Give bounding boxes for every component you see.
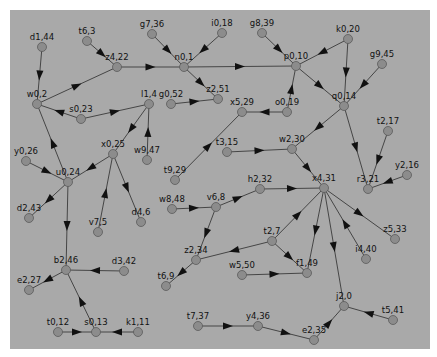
node-circle[interactable] (310, 336, 319, 345)
node-circle[interactable] (22, 157, 31, 166)
node-circle[interactable] (137, 218, 146, 227)
graph-node[interactable]: e2,35 (302, 325, 326, 345)
node-circle[interactable] (283, 108, 292, 117)
graph-node[interactable]: g7,36 (140, 19, 164, 39)
node-circle[interactable] (120, 267, 129, 276)
graph-node[interactable]: z2,51 (206, 84, 229, 104)
node-circle[interactable] (38, 43, 47, 52)
graph-node[interactable]: w0,2 (27, 89, 47, 109)
node-circle[interactable] (54, 328, 63, 337)
node-circle[interactable] (94, 228, 103, 237)
node-circle[interactable] (384, 127, 393, 136)
node-circle[interactable] (288, 145, 297, 154)
node-circle[interactable] (194, 322, 203, 331)
graph-node[interactable]: t7,37 (187, 311, 209, 331)
graph-node[interactable]: g8,39 (250, 18, 274, 38)
graph-node[interactable]: d3,42 (112, 256, 136, 276)
node-circle[interactable] (403, 171, 412, 180)
node-circle[interactable] (109, 150, 118, 159)
graph-node[interactable]: y0,26 (14, 146, 38, 166)
graph-node[interactable]: t3,15 (216, 137, 238, 157)
node-circle[interactable] (391, 235, 400, 244)
graph-node[interactable]: o0,19 (275, 97, 299, 117)
graph-node[interactable]: y2,16 (395, 160, 419, 180)
graph-node[interactable]: x4,31 (312, 173, 336, 193)
graph-node[interactable]: v7,5 (89, 217, 108, 237)
graph-node[interactable]: i0,18 (211, 18, 232, 38)
node-circle[interactable] (180, 63, 189, 72)
node-circle[interactable] (362, 255, 371, 264)
node-circle[interactable] (83, 37, 92, 46)
node-circle[interactable] (378, 60, 387, 69)
graph-node[interactable]: x0,25 (101, 139, 125, 159)
graph-node[interactable]: k1,11 (126, 317, 150, 337)
graph-node[interactable]: b2,46 (54, 255, 78, 275)
node-circle[interactable] (389, 316, 398, 325)
graph-node[interactable]: t0,12 (47, 317, 69, 337)
node-circle[interactable] (340, 102, 349, 111)
node-circle[interactable] (218, 29, 227, 38)
node-circle[interactable] (25, 214, 34, 223)
node-circle[interactable] (33, 100, 42, 109)
node-circle[interactable] (64, 178, 73, 187)
graph-node[interactable]: s0,13 (84, 317, 107, 337)
graph-node[interactable]: z5,33 (383, 224, 406, 244)
graph-node[interactable]: w8,48 (159, 194, 185, 214)
node-circle[interactable] (223, 148, 232, 157)
graph-node[interactable]: x5,29 (230, 97, 254, 117)
graph-node[interactable]: w2,30 (279, 134, 305, 154)
graph-node[interactable]: t9,29 (164, 165, 186, 185)
graph-node[interactable]: u0,24 (56, 167, 80, 187)
node-circle[interactable] (292, 62, 301, 71)
graph-node[interactable]: v6,8 (207, 192, 226, 212)
node-circle[interactable] (168, 205, 177, 214)
node-circle[interactable] (62, 266, 71, 275)
graph-node[interactable]: z4,22 (105, 52, 128, 72)
node-circle[interactable] (145, 100, 154, 109)
graph-node[interactable]: w9,47 (134, 145, 160, 165)
graph-node[interactable]: w5,50 (229, 260, 255, 280)
node-circle[interactable] (254, 322, 263, 331)
node-circle[interactable] (134, 328, 143, 337)
node-circle[interactable] (303, 269, 312, 278)
node-circle[interactable] (143, 156, 152, 165)
graph-node[interactable]: g9,45 (370, 49, 394, 69)
graph-node[interactable]: n0,1 (175, 52, 194, 72)
node-circle[interactable] (192, 256, 201, 265)
node-circle[interactable] (77, 115, 86, 124)
graph-node[interactable]: y4,36 (246, 311, 270, 331)
node-circle[interactable] (167, 100, 176, 109)
node-circle[interactable] (171, 176, 180, 185)
node-circle[interactable] (256, 185, 265, 194)
graph-node[interactable]: d4,6 (132, 207, 151, 227)
node-circle[interactable] (25, 286, 34, 295)
node-circle[interactable] (212, 203, 221, 212)
node-circle[interactable] (113, 63, 122, 72)
node-circle[interactable] (238, 108, 247, 117)
node-circle[interactable] (344, 35, 353, 44)
node-circle[interactable] (162, 282, 171, 291)
node-circle[interactable] (364, 185, 373, 194)
graph-node[interactable]: t6,3 (79, 26, 96, 46)
node-circle[interactable] (268, 237, 277, 246)
graph-node[interactable]: k0,20 (336, 24, 360, 44)
graph-node[interactable]: g0,52 (159, 89, 183, 109)
node-circle[interactable] (320, 184, 329, 193)
graph-node[interactable]: t6,9 (158, 271, 175, 291)
node-circle[interactable] (258, 29, 267, 38)
graph-node[interactable]: h2,32 (248, 174, 272, 194)
graph-node[interactable]: z2,34 (184, 245, 207, 265)
node-circle[interactable] (340, 302, 349, 311)
node-circle[interactable] (238, 271, 247, 280)
node-circle[interactable] (148, 30, 157, 39)
graph-node[interactable]: t2,17 (377, 116, 399, 136)
graph-node[interactable]: p0,10 (284, 51, 308, 71)
graph-node[interactable]: r3,21 (357, 174, 379, 194)
graph-node[interactable]: d1,44 (30, 32, 54, 52)
graph-node[interactable]: t5,41 (382, 305, 404, 325)
graph-node[interactable]: d2,43 (17, 203, 41, 223)
graph-node[interactable]: s0,23 (69, 104, 92, 124)
graph-node[interactable]: i4,40 (355, 244, 376, 264)
node-circle[interactable] (92, 328, 101, 337)
graph-node[interactable]: e2,27 (17, 275, 41, 295)
